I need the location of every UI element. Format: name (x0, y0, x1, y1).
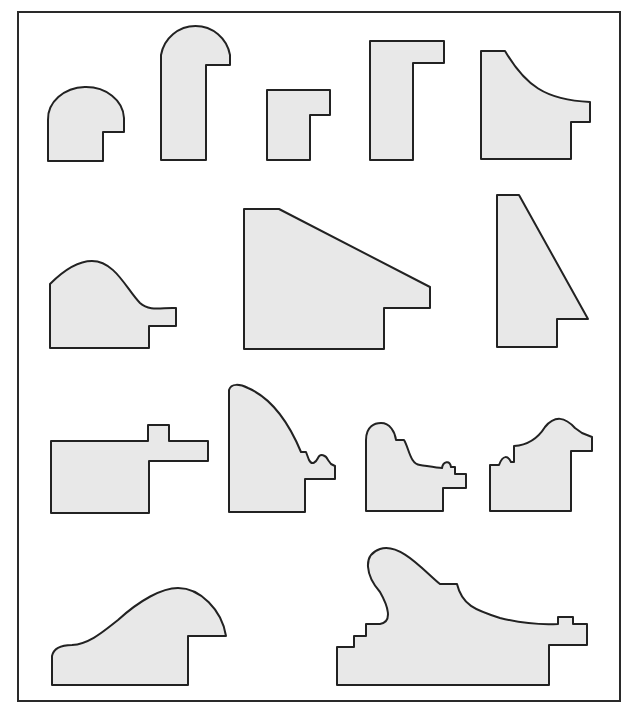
profile-tall-taper-rabbet (497, 195, 588, 347)
profile-wide-slope-rabbet (244, 209, 430, 349)
profile-low-swept-hump-rabbet (52, 588, 226, 685)
profile-ornate-crest-rabbet (490, 419, 592, 511)
profile-small-l-rabbet (267, 90, 330, 160)
molding-profiles-diagram (0, 0, 623, 709)
profile-quarter-round-rabbet (48, 87, 124, 161)
profile-concave-cove-rabbet (481, 51, 590, 159)
profile-tall-round-top-rabbet (161, 26, 230, 160)
profile-ogee-hump-rabbet (50, 261, 176, 348)
profile-ornate-scoop-rabbet (366, 423, 466, 511)
profile-flat-cap-tongue-rabbet (51, 425, 208, 513)
profile-tall-l-rabbet (370, 41, 444, 160)
profile-quarter-ellipse-bead-rabbet (229, 385, 335, 512)
profile-wide-ornate-wave-rabbet (337, 548, 587, 685)
